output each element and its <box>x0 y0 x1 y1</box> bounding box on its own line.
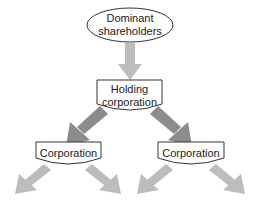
node-corporation-left: Corporation <box>36 142 101 164</box>
node-label-line1: Dominant <box>106 12 153 24</box>
ownership-diagram: Dominant shareholders Holding corporatio… <box>0 0 255 203</box>
arrow-right-corp-out-right <box>209 164 245 194</box>
node-label-line2: corporation <box>102 96 157 108</box>
node-holding-corporation: Holding corporation <box>97 80 162 110</box>
node-label: Corporation <box>162 147 219 159</box>
node-corporation-right: Corporation <box>158 142 224 164</box>
arrow-holding-to-left-corp <box>66 106 108 146</box>
arrow-left-corp-out-left <box>15 164 51 194</box>
arrow-shareholders-to-holding <box>118 43 142 80</box>
node-label-line1: Holding <box>111 83 148 95</box>
node-label: Corporation <box>40 147 97 159</box>
arrow-holding-to-right-corp <box>150 106 192 146</box>
arrow-left-corp-out-right <box>85 164 121 194</box>
node-label-line2: shareholders <box>98 25 162 37</box>
arrow-right-corp-out-left <box>137 164 173 194</box>
node-dominant-shareholders: Dominant shareholders <box>87 8 173 42</box>
